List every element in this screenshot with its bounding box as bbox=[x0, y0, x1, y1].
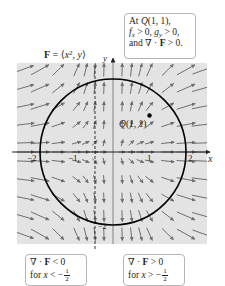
fraction-one-half: 12 bbox=[162, 268, 168, 283]
y-axis-label: y bbox=[103, 53, 107, 63]
field-arrow bbox=[104, 101, 105, 111]
callout-divergence-positive: ∇ · F > 0 for x > −12 bbox=[123, 254, 185, 286]
x-tick-neg2: −2 bbox=[27, 153, 37, 163]
x-tick-neg1: −1 bbox=[68, 153, 78, 163]
field-arrow bbox=[122, 175, 123, 183]
field-arrow bbox=[122, 193, 123, 203]
x-tick-1: 1 bbox=[147, 153, 152, 163]
field-arrow bbox=[104, 175, 105, 183]
x-tick-2: 2 bbox=[188, 153, 193, 163]
field-label: F = ⟨x2, y⟩ bbox=[44, 49, 86, 60]
callout-top-q: At Q(1, 1), fx > 0, gy > 0, and ∇ · F > … bbox=[124, 13, 196, 59]
callout-divergence-negative: ∇ · F < 0 for x < −12 bbox=[25, 254, 87, 286]
plot-background bbox=[17, 63, 207, 244]
x-axis-label: x bbox=[208, 153, 212, 164]
field-arrow bbox=[122, 101, 123, 111]
field-arrow bbox=[104, 193, 105, 203]
y-tick-neg2: −2 bbox=[98, 222, 107, 231]
point-q bbox=[147, 113, 151, 117]
field-arrow bbox=[104, 120, 105, 128]
fraction-one-half: 12 bbox=[64, 268, 70, 283]
point-q-label: Q(1, 1) bbox=[119, 119, 146, 129]
